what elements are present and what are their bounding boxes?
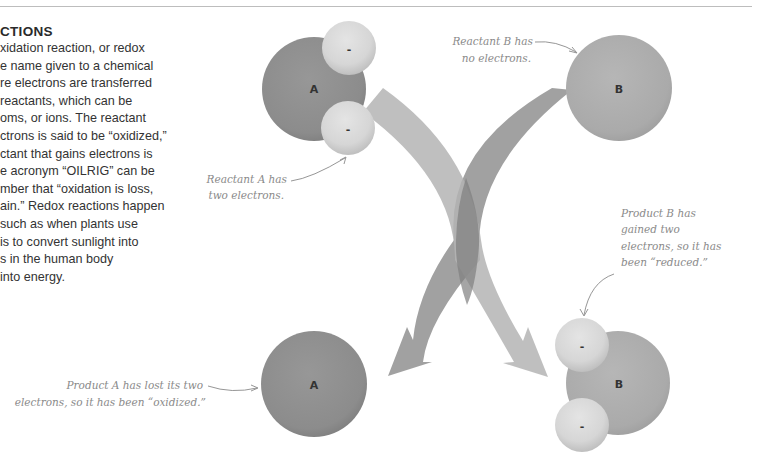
electron: - [555, 318, 609, 372]
product-a-atom: A [261, 331, 367, 437]
atom-label: A [310, 379, 319, 392]
annotation-line: Reactant A has [206, 173, 288, 185]
pointer-arrow-icon [584, 274, 614, 315]
pointer-arrow-icon [208, 386, 257, 391]
annotation-line: electrons, so it has [621, 240, 722, 252]
annotation-line: Product B has [620, 207, 696, 219]
pointer-arrow-icon [535, 42, 576, 52]
product-b-atom: B - - [555, 318, 670, 452]
reactant-b-atom: B [566, 35, 672, 141]
electron-charge: - [580, 340, 585, 353]
annotation-product-a: Product A has lost its two electrons, so… [15, 379, 258, 408]
electron: - [321, 101, 375, 155]
electron: - [322, 21, 376, 75]
reactant-a-atom: A - - [262, 21, 376, 155]
annotation-line: gained two [621, 223, 680, 235]
annotation-line: been “reduced.” [621, 256, 708, 268]
atom-label: A [310, 83, 319, 96]
annotation-line: two electrons. [208, 189, 284, 201]
annotation-reactant-b: Reactant B has no electrons. [451, 35, 577, 64]
pointer-arrow-icon [291, 158, 345, 181]
annotation-line: electrons, so it has been “oxidized.” [15, 396, 206, 408]
electron-charge: - [580, 420, 585, 433]
annotation-line: no electrons. [462, 52, 531, 64]
electron-charge: - [347, 43, 352, 56]
electron: - [555, 398, 609, 452]
annotation-line: Product A has lost its two [66, 379, 203, 391]
atom-label: B [615, 378, 623, 391]
electron-charge: - [346, 123, 351, 136]
annotation-line: Reactant B has [451, 35, 533, 47]
annotation-reactant-a: Reactant A has two electrons. [206, 157, 346, 201]
redox-diagram: A - - B A B - - Reactant A has tw [0, 0, 761, 468]
annotation-product-b: Product B has gained two electrons, so i… [580, 207, 722, 316]
atom-label: B [615, 83, 623, 96]
